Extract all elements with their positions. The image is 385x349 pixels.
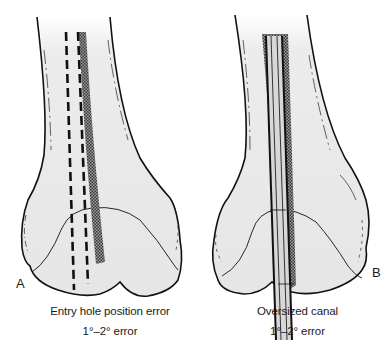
femur-diagram [0, 0, 385, 349]
caption-b-title: Oversized canal [210, 305, 385, 317]
caption-a-subtitle: 1°–2° error [20, 325, 200, 337]
panel-label-b: B [372, 265, 381, 280]
caption-b-subtitle: 1°–2° error [210, 325, 385, 337]
femur-b [213, 15, 369, 340]
femur-a [22, 17, 182, 296]
caption-a-title: Entry hole position error [20, 305, 200, 317]
panel-label-a: A [16, 276, 25, 291]
